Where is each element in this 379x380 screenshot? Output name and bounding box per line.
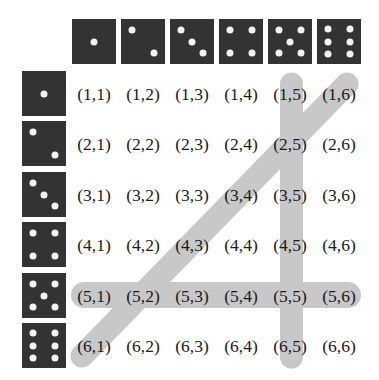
outcome-cell: (1,2) (119, 79, 168, 109)
outcome-cell: (1,3) (168, 79, 217, 109)
die-pip (52, 342, 59, 349)
die-pip (298, 27, 305, 34)
outcome-cell: (3,4) (217, 180, 266, 210)
outcome-cell: (5,1) (70, 281, 119, 311)
die-pip (30, 281, 37, 288)
outcome-cell: (6,6) (315, 331, 364, 361)
outcome-cell: (4,3) (168, 230, 217, 260)
die-pip (249, 27, 256, 34)
die-pip (91, 38, 98, 45)
row-header-die-6 (22, 323, 66, 368)
outcome-cell: (3,1) (70, 180, 119, 210)
outcome-cell: (1,4) (217, 79, 266, 109)
die-pip (249, 49, 256, 56)
outcome-cell: (6,4) (217, 331, 266, 361)
outcome-cell: (3,3) (168, 180, 217, 210)
die-pip (41, 292, 48, 299)
die-pip (129, 27, 136, 34)
outcome-cell: (6,5) (266, 331, 315, 361)
dice-outcome-diagram: (1,1)(1,2)(1,3)(1,4)(1,5)(1,6)(2,1)(2,2)… (0, 0, 379, 380)
column-header-die-6 (317, 19, 361, 64)
die-pip (52, 329, 59, 336)
die-pip (151, 49, 158, 56)
die-pip (30, 329, 37, 336)
outcome-cell: (6,3) (168, 331, 217, 361)
outcome-cell: (3,2) (119, 180, 168, 210)
outcome-cell: (1,1) (70, 79, 119, 109)
outcome-cell: (3,6) (315, 180, 364, 210)
die-pip (41, 191, 48, 198)
outcome-cell: (4,6) (315, 230, 364, 260)
die-pip (298, 49, 305, 56)
die-pip (325, 38, 332, 45)
die-pip (325, 25, 332, 32)
outcome-cell: (2,5) (266, 129, 315, 159)
die-pip (287, 38, 294, 45)
outcome-cell: (1,6) (315, 79, 364, 109)
outcome-cell: (5,2) (119, 281, 168, 311)
outcome-cell: (5,3) (168, 281, 217, 311)
die-pip (200, 49, 207, 56)
die-pip (30, 129, 37, 136)
row-header-die-1 (22, 71, 66, 116)
die-pip (30, 230, 37, 237)
outcome-cell: (6,2) (119, 331, 168, 361)
die-pip (347, 25, 354, 32)
outcome-cell: (2,3) (168, 129, 217, 159)
outcome-cell: (1,5) (266, 79, 315, 109)
die-pip (52, 202, 59, 209)
die-pip (41, 90, 48, 97)
outcome-cell: (5,5) (266, 281, 315, 311)
outcome-cell: (4,1) (70, 230, 119, 260)
die-pip (52, 355, 59, 362)
die-pip (325, 51, 332, 58)
row-header-die-3 (22, 172, 66, 217)
die-pip (30, 342, 37, 349)
outcome-cell: (2,1) (70, 129, 119, 159)
outcome-cell: (3,5) (266, 180, 315, 210)
die-pip (30, 180, 37, 187)
die-pip (52, 230, 59, 237)
outcome-cell: (4,4) (217, 230, 266, 260)
outcome-cell: (6,1) (70, 331, 119, 361)
die-pip (347, 38, 354, 45)
die-pip (227, 49, 234, 56)
outcome-cell: (2,4) (217, 129, 266, 159)
die-pip (227, 27, 234, 34)
die-pip (276, 49, 283, 56)
outcome-cell: (2,6) (315, 129, 364, 159)
outcome-cell: (5,6) (315, 281, 364, 311)
die-pip (178, 27, 185, 34)
row-header-die-5 (22, 273, 66, 318)
die-pip (30, 355, 37, 362)
column-header-die-2 (121, 19, 165, 64)
die-pip (52, 151, 59, 158)
die-pip (52, 303, 59, 310)
column-header-die-3 (170, 19, 214, 64)
outcome-cell: (4,2) (119, 230, 168, 260)
column-header-die-5 (268, 19, 312, 64)
highlight-band-diagonal-sum-7 (82, 84, 347, 356)
die-pip (52, 252, 59, 259)
row-header-die-2 (22, 121, 66, 166)
outcome-cell: (4,5) (266, 230, 315, 260)
row-header-die-4 (22, 222, 66, 267)
die-pip (347, 51, 354, 58)
die-pip (30, 252, 37, 259)
die-pip (30, 303, 37, 310)
outcome-cell: (5,4) (217, 281, 266, 311)
die-pip (276, 27, 283, 34)
column-header-die-1 (72, 19, 116, 64)
die-pip (189, 38, 196, 45)
column-header-die-4 (219, 19, 263, 64)
die-pip (52, 281, 59, 288)
outcome-cell: (2,2) (119, 129, 168, 159)
